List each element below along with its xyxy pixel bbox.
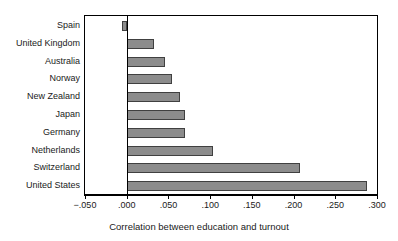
x-tick-label-5: .200 — [285, 201, 303, 210]
zero-reference-line — [127, 16, 128, 194]
x-tick-label-2: .050 — [160, 201, 178, 210]
bar-switzerland — [127, 163, 301, 173]
bar-united-kingdom — [127, 39, 155, 49]
x-tick-label-3: .100 — [201, 201, 219, 210]
y-axis-label-netherlands: Netherlands — [0, 145, 80, 154]
x-tick-6 — [335, 195, 336, 199]
x-tick-1 — [127, 195, 128, 199]
x-tick-4 — [252, 195, 253, 199]
y-axis-label-switzerland: Switzerland — [0, 163, 80, 172]
bar-netherlands — [127, 146, 213, 156]
x-tick-label-0: −.050 — [74, 201, 97, 210]
y-axis-label-united-states: United States — [0, 181, 80, 190]
x-tick-label-7: .300 — [368, 201, 386, 210]
bar-australia — [127, 57, 165, 67]
x-tick-2 — [168, 195, 169, 199]
bar-chart-figure: SpainUnited KingdomAustraliaNorwayNew Ze… — [0, 0, 398, 241]
x-tick-5 — [294, 195, 295, 199]
bar-norway — [127, 74, 172, 84]
x-tick-3 — [210, 195, 211, 199]
bar-germany — [127, 128, 185, 138]
y-axis-label-japan: Japan — [0, 109, 80, 118]
x-tick-7 — [377, 195, 378, 199]
y-axis-category-labels: SpainUnited KingdomAustraliaNorwayNew Ze… — [0, 15, 80, 195]
y-axis-label-united-kingdom: United Kingdom — [0, 38, 80, 47]
y-axis-label-norway: Norway — [0, 74, 80, 83]
x-tick-label-1: .000 — [118, 201, 136, 210]
bar-japan — [127, 110, 185, 120]
x-tick-label-6: .250 — [327, 201, 345, 210]
y-axis-label-spain: Spain — [0, 20, 80, 29]
x-axis-line — [84, 195, 378, 196]
x-tick-label-4: .150 — [243, 201, 261, 210]
bar-united-states — [127, 181, 367, 191]
y-axis-label-new-zealand: New Zealand — [0, 92, 80, 101]
y-axis-label-australia: Australia — [0, 56, 80, 65]
x-tick-0 — [85, 195, 86, 199]
bar-series — [85, 16, 377, 194]
x-axis-title: Correlation between education and turnou… — [0, 221, 398, 232]
bar-new-zealand — [127, 92, 180, 102]
y-axis-label-germany: Germany — [0, 127, 80, 136]
